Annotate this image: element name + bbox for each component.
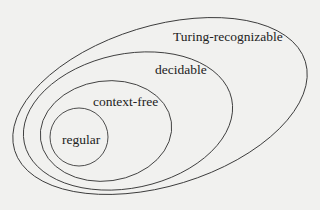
decidable-label: decidable: [155, 63, 207, 77]
context-free-label: context-free: [93, 95, 158, 109]
context-free-ellipse: [34, 72, 179, 189]
turing-recognizable-label: Turing-recognizable: [173, 30, 283, 44]
regular-label: regular: [62, 133, 100, 147]
